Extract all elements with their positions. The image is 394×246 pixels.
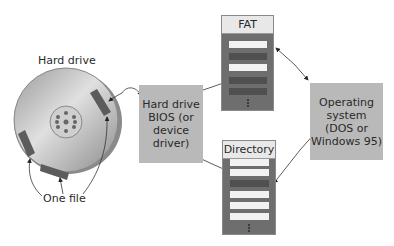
directory-row-2 [230,169,269,176]
one-file-label: One file [43,192,86,205]
os-line-1: Operating [311,96,382,109]
bios-line-2: BIOS (or [142,111,200,124]
fat-more-ellipsis-icon [247,99,249,108]
directory-more-ellipsis-icon [248,224,250,233]
os-line-3: (DOS or [311,122,382,135]
fat-row-5 [229,88,267,95]
bios-line-3: device [142,124,200,137]
directory-title: Directory [223,141,275,159]
os-line-4: Windows 95) [311,135,382,148]
directory-row-6 [230,213,269,220]
bios-line-4: driver) [142,137,200,150]
fat-row-3 [229,64,267,71]
directory-row-5 [230,202,269,209]
directory-row-1 [230,159,269,166]
fat-row-1 [229,41,267,48]
hard-drive-label: Hard drive [38,54,96,67]
os-line-2: system [311,109,382,122]
bios-line-1: Hard drive [142,98,200,111]
fat-row-2 [229,53,267,60]
directory-row-3 [230,180,269,187]
hard-drive-bios-box: Hard drive BIOS (or device driver) [139,85,203,163]
fat-title: FAT [222,16,273,34]
directory-table: Directory [222,140,276,235]
hard-drive-disk-icon [14,68,122,180]
operating-system-box: Operating system (DOS or Windows 95) [310,83,383,160]
directory-row-4 [230,191,269,198]
fat-row-4 [229,77,267,84]
fat-table: FAT [221,15,274,111]
